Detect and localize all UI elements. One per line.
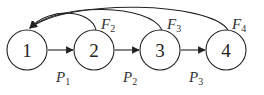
label-P1: P1 xyxy=(55,69,70,87)
node-label: 2 xyxy=(89,40,99,61)
label-P2: P2 xyxy=(122,69,137,87)
flow-diagram: 1 2 3 4 F2 F3 F4 P1 P2 P3 xyxy=(0,0,264,95)
feedback-edge-3-1 xyxy=(30,9,162,30)
label-P3: P3 xyxy=(188,69,203,87)
feedback-edges xyxy=(30,7,228,30)
label-F3: F3 xyxy=(166,16,181,34)
node-2: 2 xyxy=(74,30,114,70)
diagram-svg: 1 2 3 4 F2 F3 F4 P1 P2 P3 xyxy=(0,0,264,95)
feedback-edge-4-1 xyxy=(30,7,228,30)
node-1: 1 xyxy=(7,30,47,70)
node-label: 1 xyxy=(22,40,32,61)
label-F4: F4 xyxy=(231,16,246,34)
label-F2: F2 xyxy=(100,16,115,34)
node-label: 3 xyxy=(155,40,165,61)
node-label: 4 xyxy=(221,40,231,61)
node-3: 3 xyxy=(140,30,180,70)
node-4: 4 xyxy=(206,30,246,70)
